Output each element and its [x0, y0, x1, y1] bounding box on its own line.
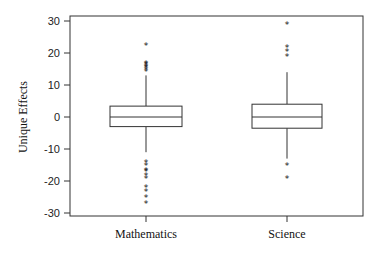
box-mathematics: *****************: [110, 41, 182, 209]
y-axis: 3020100-10-20-30: [44, 15, 70, 219]
outlier-marker: *: [285, 20, 290, 30]
y-tick-label: -10: [44, 143, 60, 155]
y-tick-label: 0: [54, 111, 60, 123]
box-science: ******: [252, 20, 322, 184]
outlier-marker: *: [144, 67, 149, 77]
y-tick-label: 10: [48, 79, 60, 91]
y-tick-label: 20: [48, 47, 60, 59]
x-category-label: Mathematics: [115, 227, 177, 241]
boxes: ***********************: [110, 20, 322, 209]
y-tick-label: 30: [48, 15, 60, 27]
outlier-marker: *: [144, 174, 149, 184]
outlier-marker: *: [285, 52, 290, 62]
iqr-box: [110, 106, 182, 126]
y-tick-label: -30: [44, 207, 60, 219]
outlier-marker: *: [285, 174, 290, 184]
y-tick-label: -20: [44, 175, 60, 187]
iqr-box: [252, 104, 322, 128]
y-axis-title: Unique Effects: [16, 81, 30, 153]
outlier-marker: *: [285, 161, 290, 171]
x-axis: MathematicsScience: [115, 216, 306, 241]
outlier-marker: *: [144, 41, 149, 51]
x-category-label: Science: [268, 227, 305, 241]
outlier-marker: *: [144, 199, 149, 209]
boxplot-chart: 3020100-10-20-30 ***********************…: [0, 0, 383, 254]
